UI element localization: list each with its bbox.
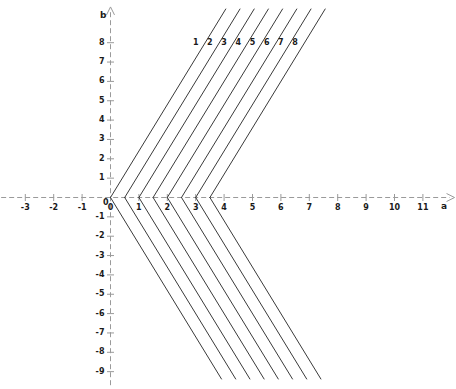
curve-branch-8 [210, 198, 321, 380]
x-axis-label: a [441, 202, 447, 211]
axes-layer [1, 7, 454, 385]
y-tick-label: -1 [85, 213, 105, 221]
y-tick-label: -6 [85, 310, 105, 318]
curve-4 [153, 9, 268, 379]
curve-7 [196, 9, 311, 379]
graph-canvas: b a -3-2-101234567891011 -9-8-7-6-5-4-3-… [0, 0, 456, 389]
x-tick-label: 9 [356, 204, 376, 212]
curve-branch-2 [125, 198, 236, 380]
y-tick-label: 7 [85, 58, 105, 66]
y-tick-label: 1 [85, 174, 105, 182]
y-tick-label: 6 [85, 77, 105, 85]
curve-branch-5 [167, 198, 278, 380]
curve-6 [182, 9, 297, 379]
x-tick-label: 4 [214, 204, 234, 212]
curves-layer [111, 9, 326, 379]
x-tick-label: 11 [413, 204, 433, 212]
y-tick-label: 3 [85, 135, 105, 143]
curve-8 [210, 9, 325, 379]
y-axis-label: b [100, 11, 106, 20]
y-tick-label: -9 [85, 368, 105, 376]
curve-2 [125, 9, 240, 379]
x-tick-label: 5 [243, 204, 263, 212]
curve-branch-6 [182, 198, 293, 380]
x-tick-label: -3 [15, 204, 35, 212]
x-tick-label: 3 [186, 204, 206, 212]
x-tick-label: 10 [385, 204, 405, 212]
y-tick-label: 4 [85, 116, 105, 124]
curve-branch-1 [111, 198, 222, 380]
curve-label-8: 8 [285, 39, 305, 47]
y-tick-label: 2 [85, 155, 105, 163]
x-tick-label: 1 [129, 204, 149, 212]
y-tick-label: -7 [85, 329, 105, 337]
coordinate-plot [0, 0, 456, 389]
x-tick-label: 7 [299, 204, 319, 212]
origin-label: 0 [89, 199, 109, 207]
curve-branch-4 [153, 198, 264, 380]
y-tick-label: 8 [85, 39, 105, 47]
y-tick-label: -4 [85, 271, 105, 279]
curve-3 [139, 9, 254, 379]
x-tick-label: 2 [157, 204, 177, 212]
x-axis-arrowhead [447, 194, 455, 202]
y-tick-label: -5 [85, 290, 105, 298]
curve-1 [111, 9, 226, 379]
y-tick-label: -8 [85, 348, 105, 356]
curve-branch-7 [196, 198, 307, 380]
y-tick-label: 5 [85, 97, 105, 105]
y-tick-label: -2 [85, 232, 105, 240]
x-tick-label: 8 [328, 204, 348, 212]
y-tick-label: -3 [85, 252, 105, 260]
x-tick-label: 6 [271, 204, 291, 212]
curve-5 [167, 9, 282, 379]
curve-branch-3 [139, 198, 250, 380]
x-tick-label: -2 [44, 204, 64, 212]
